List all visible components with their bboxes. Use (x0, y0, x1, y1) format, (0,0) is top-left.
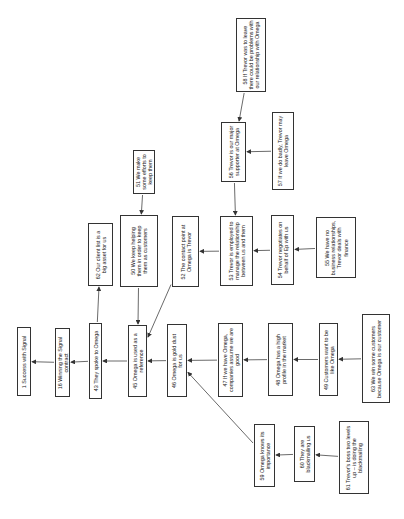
node-45: 45 Omega is used as a reference (128, 325, 147, 397)
node-52: 52 The contact point at Omega is Trevor (172, 216, 199, 287)
node-50: 50 We keep helping them in order to keep… (120, 215, 158, 287)
edge-43-to-62 (97, 287, 99, 322)
node-47: 47 If we have Omega, companies assume we… (218, 323, 243, 397)
node-label: 60 They are blackmailing us (298, 429, 310, 479)
node-label: 47 If we have Omega, companies assume we… (221, 326, 240, 394)
node-label: 46 Omega is gold dust for us (171, 331, 183, 391)
node-54: 54 Trevor negotiates on behalf of Ep wit… (271, 215, 294, 285)
node-58: 58 If Trevor was to leave there could be… (236, 18, 266, 92)
node-56: 56 Trevor is our major supporter at Omeg… (221, 122, 246, 182)
node-16: 16 Winning the Signal contract (55, 328, 70, 397)
node-57: 57 If we do badly, Trevor may leave Omeg… (272, 112, 294, 190)
edge-58-to-56 (239, 93, 244, 121)
node-51: 51 We make some efforts to keep them (133, 150, 155, 194)
node-63: 63 We win some customers because Omega i… (362, 314, 390, 403)
node-label: 16 Winning the Signal contract (56, 333, 68, 393)
node-label: 1 Success with Signal (21, 329, 27, 395)
node-62: 62 Our client list is a big asset for us (88, 223, 113, 286)
node-label: 43 They spoke to Omega (92, 324, 98, 398)
node-55: 55 We have no business relationships, Tr… (316, 217, 356, 278)
edge-16-to-1 (32, 362, 54, 363)
node-49: 49 Customers want to be like Omega (319, 323, 338, 396)
node-60: 60 They are blackmailing us (294, 426, 315, 482)
node-label: 57 If we do badly, Trevor may leave Omeg… (277, 114, 289, 188)
node-label: 49 Customers want to be like Omega (322, 326, 334, 394)
node-label: 61 Trevor's boss two levels up – is doin… (345, 424, 364, 492)
node-label: 45 Omega is used as a reference (131, 328, 143, 394)
node-59: 59 Omega knows its importance (254, 424, 275, 487)
node-label: 62 Our client list is a big asset for us (94, 227, 106, 283)
edge-56-to-53 (234, 183, 235, 215)
edge-51-to-50 (141, 195, 142, 214)
node-label: 51 We make some efforts to keep them (135, 151, 154, 193)
node-label: 53 Trevor is employed to manage the rela… (227, 217, 246, 285)
node-43: 43 They spoke to Omega (89, 323, 102, 399)
node-label: 54 Trevor negotiates on behalf of Ep wit… (276, 217, 288, 283)
node-label: 58 If Trevor was to leave there could be… (242, 19, 261, 91)
node-53: 53 Trevor is employed to manage the rela… (220, 216, 253, 286)
edge-43-to-16 (71, 361, 88, 362)
node-label: 55 We have no business relationships, Tr… (324, 220, 349, 276)
node-label: 48 Omega has a high profile in the marke… (274, 330, 286, 390)
node-label: 63 We win some customers because Omega i… (370, 319, 382, 399)
node-label: 50 We keep helping them in order to keep… (130, 221, 149, 281)
edge-61-to-60 (316, 455, 338, 457)
node-label: 56 Trevor is our major supporter at Omeg… (227, 124, 239, 180)
node-1: 1 Success with Signal (17, 327, 31, 396)
node-46: 46 Omega is gold dust for us (167, 324, 187, 397)
node-label: 52 The contact point at Omega is Trevor (179, 224, 191, 280)
edge-55-to-54 (295, 248, 315, 249)
node-label: 59 Omega knows its importance (258, 426, 270, 486)
node-61: 61 Trevor's boss two levels up – is doin… (339, 421, 369, 494)
node-48: 48 Omega has a high profile in the marke… (268, 323, 293, 396)
edge-60-to-59 (276, 454, 293, 455)
